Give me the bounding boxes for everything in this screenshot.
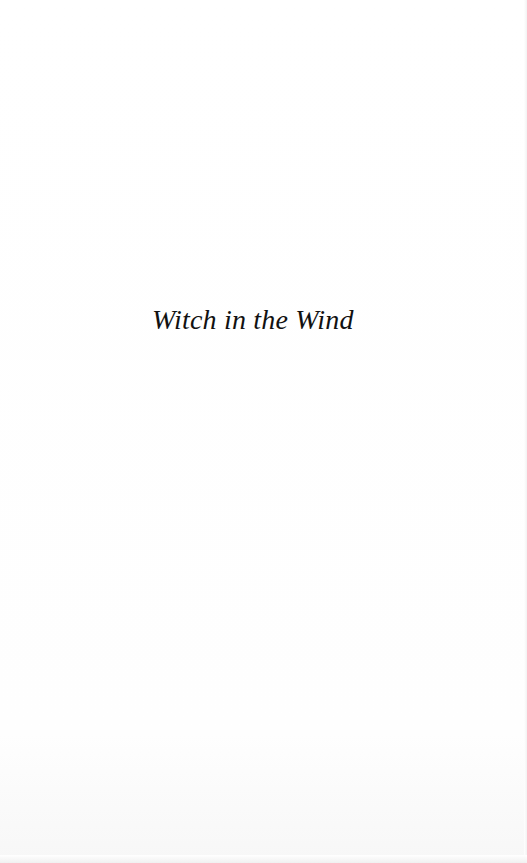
half-title: Witch in the Wind	[152, 302, 354, 338]
book-page: Witch in the Wind	[0, 0, 527, 863]
page-bottom-shadow	[0, 855, 527, 863]
